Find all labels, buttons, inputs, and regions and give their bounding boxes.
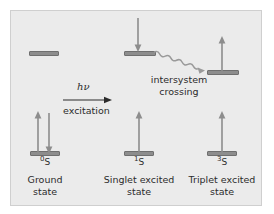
excitation-label: excitation: [63, 105, 110, 116]
upper-left-energy-level-bar: [29, 51, 59, 56]
photon-energy-label: hν: [77, 81, 90, 92]
ground-state-symbol: 0S: [25, 158, 65, 167]
triplet-upper-up-arrow: [216, 36, 230, 72]
ground-state-symbol-base: S: [44, 157, 50, 167]
singlet-state-up-arrow: [133, 111, 147, 153]
triplet-state-name: Triplet excited state: [183, 174, 261, 197]
triplet-state-symbol-base: S: [221, 157, 227, 167]
ground-state-electron-arrows: [33, 111, 59, 155]
singlet-state-symbol: 1S: [119, 158, 159, 167]
triplet-state-up-arrow: [216, 111, 230, 153]
singlet-upper-down-arrow: [132, 18, 146, 53]
singlet-state-symbol-base: S: [138, 157, 144, 167]
intersystem-crossing-wavy-arrow: [154, 47, 212, 77]
ground-state-name: Ground state: [15, 174, 75, 197]
intersystem-crossing-label: intersystem crossing: [143, 74, 215, 97]
singlet-state-name: Singlet excited state: [100, 174, 178, 197]
diagram-panel: hν excitation intersystem crossing 0S Gr…: [10, 10, 262, 206]
triplet-state-symbol: 3S: [202, 158, 242, 167]
